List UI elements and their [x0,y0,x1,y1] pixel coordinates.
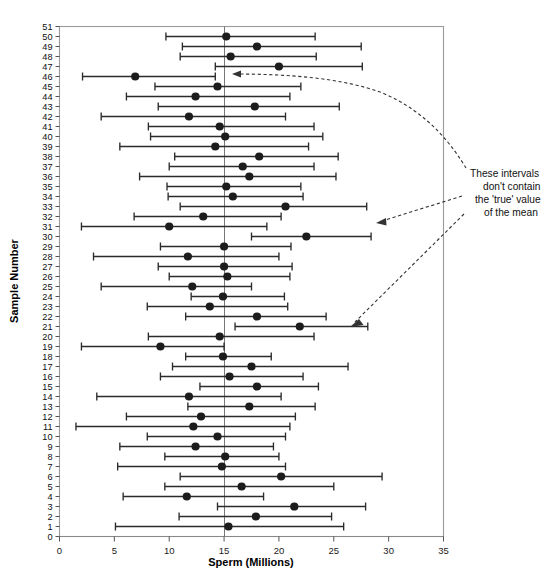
interval-row-sample-34 [168,192,303,200]
y-tick-label-4: 4 [47,492,52,502]
y-tick-label-15: 15 [42,382,52,392]
y-tick-label-6: 6 [47,472,52,482]
interval-row-sample-5 [165,482,334,490]
sample-mean-dot [188,282,196,290]
sample-mean-dot [296,322,304,330]
sample-mean-dot [165,222,173,230]
x-tick-label-35: 35 [438,545,449,556]
annotation-line-1: These intervals [470,168,539,179]
sample-mean-dot [156,342,164,350]
annotation-line-4: of the mean [484,207,538,218]
y-tick-label-34: 34 [42,192,52,202]
interval-row-sample-45 [155,82,301,90]
annotation-line-2: don't contain [483,181,540,192]
y-tick-label-16: 16 [42,372,52,382]
interval-row-sample-30 [252,232,372,240]
sample-mean-dot [223,272,231,280]
sample-mean-dot [275,62,283,70]
interval-row-sample-4 [123,492,263,500]
sample-mean-dot [221,452,229,460]
sample-mean-dot [253,42,261,50]
interval-row-sample-37 [169,162,314,170]
sample-mean-dot [253,382,261,390]
interval-row-sample-23 [147,302,287,310]
y-tick-label-0: 0 [47,532,52,542]
y-tick-label-9: 9 [47,442,52,452]
sample-mean-dot [183,492,191,500]
sample-mean-dot [221,132,229,140]
plot-frame [60,27,444,537]
sample-mean-dot [247,362,255,370]
x-axis: 05101520253035 [57,537,449,556]
y-tick-label-19: 19 [42,342,52,352]
x-tick-label-0: 0 [57,545,62,556]
y-tick-label-30: 30 [42,232,52,242]
interval-row-sample-40 [151,132,323,140]
y-tick-label-43: 43 [42,102,52,112]
interval-row-sample-43 [158,102,339,110]
y-tick-label-27: 27 [42,262,52,272]
y-tick-label-32: 32 [42,212,52,222]
y-tick-label-26: 26 [42,272,52,282]
y-tick-label-24: 24 [42,292,52,302]
x-tick-label-20: 20 [274,545,285,556]
sample-mean-dot [302,232,310,240]
sample-mean-dot [131,72,139,80]
interval-row-sample-42 [101,112,285,120]
interval-row-sample-1 [115,522,343,530]
sample-mean-dot [185,112,193,120]
y-tick-label-48: 48 [42,52,52,62]
y-tick-label-42: 42 [42,112,52,122]
sample-mean-dot [184,252,192,260]
sample-mean-dot [245,402,253,410]
y-axis: 0123456789101112131415161718192021222324… [42,22,59,542]
sample-mean-dot [220,242,228,250]
y-tick-label-20: 20 [42,332,52,342]
interval-series [76,32,382,530]
interval-row-sample-39 [120,142,309,150]
interval-row-sample-38 [175,152,338,160]
sample-mean-dot [218,462,226,470]
sample-mean-dot [229,192,237,200]
y-tick-label-17: 17 [42,362,52,372]
sample-mean-dot [290,502,298,510]
interval-row-sample-22 [186,312,326,320]
interval-row-sample-19 [81,342,224,350]
interval-row-sample-16 [160,372,303,380]
interval-row-sample-10 [147,432,285,440]
sample-mean-dot [239,162,247,170]
sample-mean-dot [213,82,221,90]
interval-row-sample-11 [76,422,290,430]
y-tick-label-28: 28 [42,252,52,262]
x-tick-label-25: 25 [328,545,339,556]
sample-mean-dot [191,442,199,450]
y-tick-label-29: 29 [42,242,52,252]
y-tick-label-21: 21 [42,322,52,332]
sample-mean-dot [222,32,230,40]
interval-row-sample-47 [215,62,362,70]
interval-row-sample-32 [134,212,281,220]
x-axis-title: Sperm (Millions) [208,556,294,568]
y-tick-label-49: 49 [42,42,52,52]
interval-row-sample-15 [200,382,318,390]
sample-mean-dot [227,52,235,60]
y-tick-label-39: 39 [42,142,52,152]
interval-row-sample-24 [191,292,284,300]
y-tick-label-25: 25 [42,282,52,292]
interval-row-sample-2 [179,512,332,520]
x-tick-label-5: 5 [112,545,117,556]
sample-mean-dot [211,142,219,150]
sample-mean-dot [219,292,227,300]
sample-mean-dot [213,432,221,440]
sample-mean-dot [277,472,285,480]
y-tick-label-47: 47 [42,62,52,72]
interval-row-sample-12 [126,412,295,420]
sample-mean-dot [216,122,224,130]
sample-mean-dot [222,182,230,190]
y-tick-label-31: 31 [42,222,52,232]
interval-row-sample-13 [188,402,315,410]
y-tick-label-23: 23 [42,302,52,312]
sample-mean-dot [191,92,199,100]
y-tick-label-41: 41 [42,122,52,132]
y-tick-label-40: 40 [42,132,52,142]
